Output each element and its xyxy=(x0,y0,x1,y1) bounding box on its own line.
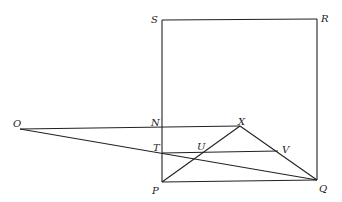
segment-TV xyxy=(162,151,278,153)
segment-OX xyxy=(20,126,240,129)
label-X: X xyxy=(237,116,246,127)
segment-PX xyxy=(162,126,240,182)
label-N: N xyxy=(150,117,161,128)
segment-XQ xyxy=(240,126,317,180)
label-P: P xyxy=(151,185,159,196)
segment-SR xyxy=(162,19,317,20)
segment-QP xyxy=(162,180,317,182)
geometry-diagram: S R O N X T U V P Q xyxy=(0,0,342,202)
label-R: R xyxy=(320,13,329,24)
label-U: U xyxy=(197,141,206,152)
label-S: S xyxy=(151,14,158,25)
label-O: O xyxy=(13,118,21,129)
label-V: V xyxy=(282,144,291,155)
segments xyxy=(20,19,317,182)
label-Q: Q xyxy=(319,183,327,194)
segment-OQ xyxy=(20,129,317,180)
label-T: T xyxy=(153,142,161,153)
point-labels: S R O N X T U V P Q xyxy=(13,13,329,196)
